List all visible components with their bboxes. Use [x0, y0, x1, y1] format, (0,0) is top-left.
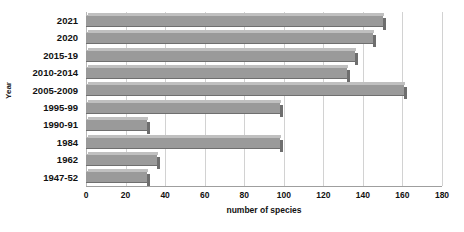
- bar-row: [86, 12, 442, 29]
- y-axis-tick-label: 2005-2009: [8, 82, 82, 99]
- y-axis-tick-labels: 2021 2020 2015-19 2010-2014 2005-2009 19…: [8, 12, 82, 186]
- x-axis-tick-label: 80: [239, 190, 248, 200]
- x-axis-tick-label: 20: [121, 190, 130, 200]
- bar-row: [86, 116, 442, 133]
- bar[interactable]: [86, 32, 373, 44]
- bar-row: [86, 47, 442, 64]
- gridline: [442, 12, 443, 186]
- x-axis-tick-label: 140: [356, 190, 370, 200]
- bar-row: [86, 134, 442, 151]
- bar-row: [86, 99, 442, 116]
- bar-row: [86, 169, 442, 186]
- x-axis-tick-label: 40: [160, 190, 169, 200]
- bar[interactable]: [86, 137, 280, 149]
- x-axis-tick-label: 0: [84, 190, 89, 200]
- bars-layer: [86, 12, 442, 186]
- bar[interactable]: [86, 84, 404, 96]
- bar-row: [86, 82, 442, 99]
- bar-chart: Year 2021 2020 2015-19 2010-2014 2005-20…: [0, 0, 464, 232]
- x-axis-tick-label: 180: [435, 190, 449, 200]
- y-axis-tick-label: 2015-19: [8, 47, 82, 64]
- bar[interactable]: [86, 67, 347, 79]
- y-axis-tick-label: 1962: [8, 151, 82, 168]
- bar[interactable]: [86, 119, 147, 131]
- x-axis-tick-label: 160: [395, 190, 409, 200]
- y-axis-tick-label: 2021: [8, 12, 82, 29]
- bar-row: [86, 29, 442, 46]
- x-axis-tick-label: 120: [316, 190, 330, 200]
- x-axis-title: number of species: [86, 205, 442, 215]
- plot-area: [86, 12, 442, 186]
- x-axis-tick-label: 100: [277, 190, 291, 200]
- x-axis-tick-label: 60: [200, 190, 209, 200]
- x-axis-tick-labels: 020406080100120140160180: [86, 190, 442, 204]
- bar[interactable]: [86, 154, 157, 166]
- bar[interactable]: [86, 50, 355, 62]
- bar[interactable]: [86, 102, 280, 114]
- y-axis-tick-label: 2010-2014: [8, 64, 82, 81]
- y-axis-tick-label: 1947-52: [8, 169, 82, 186]
- bar-row: [86, 64, 442, 81]
- bar[interactable]: [86, 171, 147, 183]
- bar-row: [86, 151, 442, 168]
- y-axis-tick-label: 2020: [8, 29, 82, 46]
- x-axis-line: [86, 186, 442, 187]
- bar[interactable]: [86, 15, 383, 27]
- y-axis-tick-label: 1984: [8, 134, 82, 151]
- y-axis-tick-label: 1990-91: [8, 116, 82, 133]
- y-axis-tick-label: 1995-99: [8, 99, 82, 116]
